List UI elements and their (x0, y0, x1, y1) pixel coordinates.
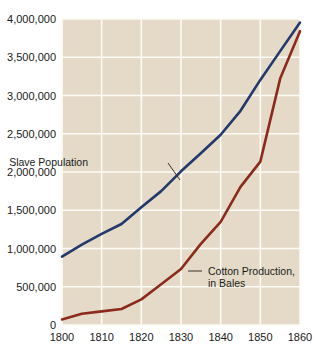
y-tick-label-1: 500,000 (16, 281, 56, 293)
y-tick-label-7: 3,500,000 (7, 51, 56, 63)
annotation-slave-population-label: Slave Population (9, 156, 88, 168)
line-chart: 0500,0001,000,0001,500,0002,000,0002,500… (0, 0, 318, 359)
y-tick-label-5: 2,500,000 (7, 128, 56, 140)
y-tick-label-8: 4,000,000 (7, 13, 56, 25)
y-tick-label-3: 1,500,000 (7, 204, 56, 216)
y-tick-label-6: 3,000,000 (7, 90, 56, 102)
x-tick-label-3: 1830 (169, 331, 193, 343)
x-tick-label-2: 1820 (129, 331, 153, 343)
y-tick-label-2: 1,000,000 (7, 243, 56, 255)
y-tick-label-0: 0 (50, 319, 56, 331)
annotation-cotton-production-label-line2: in Bales (208, 277, 245, 289)
x-tick-label-4: 1840 (208, 331, 232, 343)
x-tick-label-0: 1800 (50, 331, 74, 343)
annotation-cotton-production-label: Cotton Production, (208, 265, 295, 277)
x-tick-label-6: 1860 (288, 331, 312, 343)
chart-container: 0500,0001,000,0001,500,0002,000,0002,500… (0, 0, 318, 359)
x-tick-label-1: 1810 (89, 331, 113, 343)
x-tick-label-5: 1850 (248, 331, 272, 343)
